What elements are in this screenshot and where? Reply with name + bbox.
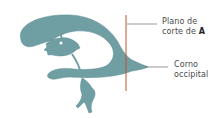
occipital-horn-label: Corno occipital bbox=[174, 60, 208, 80]
cut-plane-label-letter: A bbox=[199, 27, 205, 36]
occipital-horn-label-line2: occipital bbox=[174, 70, 208, 80]
occipital-horn-label-line1: Corno bbox=[174, 60, 208, 70]
lateral-ventricle-shape bbox=[20, 15, 148, 79]
cut-plane-label: Plano de corte de A bbox=[162, 17, 205, 37]
interventricular-foramen-dot bbox=[60, 42, 63, 45]
cut-plane-label-prefix: corte de bbox=[162, 27, 199, 36]
cut-plane-label-line1: Plano de bbox=[162, 17, 205, 27]
fourth-ventricle-shape bbox=[76, 78, 95, 113]
cut-plane-label-line2: corte de A bbox=[162, 27, 205, 37]
